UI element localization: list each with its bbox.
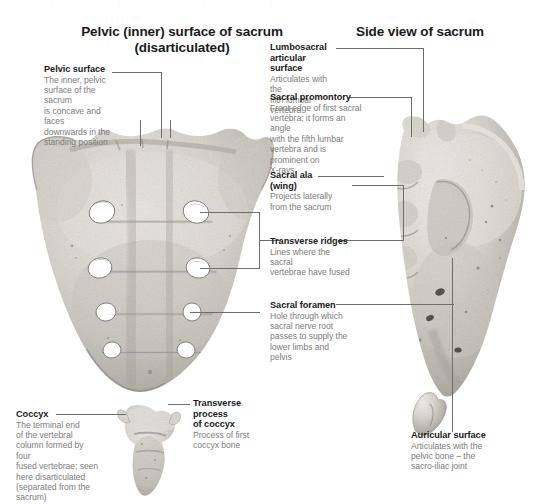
leader-transverse-process-h [168,404,190,405]
page-title-left: Pelvic (inner) surface of sacrum (disart… [62,24,302,56]
callout-sacral-promontory-title: Sacral promontory [270,92,362,103]
leader-ridges-pelvic-h2 [200,268,260,269]
callout-transverse-process-title-line2: process [193,409,269,420]
callout-auricular-surface-title: Auricular surface [411,430,507,441]
callout-lumbosacral-title-line2: articular surface [270,53,340,74]
callout-sacral-ala-desc: Projects laterally from the sacrum [270,191,344,212]
leader-auricular-v [452,258,453,432]
leader-transverse-ridges-h2 [352,185,404,186]
callout-lumbosacral-title-line1: Lumbosacral [270,42,340,53]
leader-pelvic-tick1 [140,120,141,146]
page-title-right: Side view of sacrum [320,24,520,40]
callout-transverse-process-title-line3: of coccyx [193,419,269,430]
leader-pelvic-tick2 [170,120,171,138]
leader-sacral-foramen-h [336,304,454,305]
page-title-left-line1: Pelvic (inner) surface of sacrum [62,24,302,40]
callout-transverse-process-title-line1: Transverse [193,398,269,409]
callout-pelvic-surface-desc: The inner, pelvic surface of the sacrum … [44,75,122,148]
callout-sacral-ala-title-line1: Sacral ala [270,170,344,181]
callout-pelvic-surface: Pelvic surface The inner, pelvic surface… [44,64,122,147]
callout-transverse-ridges-title: Transverse ridges [270,236,350,247]
callout-auricular-surface-desc: Articulates with the pelvic bone – the s… [411,441,507,472]
callout-coccyx-title: Coccyx [16,409,100,420]
leader-lumbosacral-h [336,48,424,49]
callout-sacral-promontory-desc: Front edge of first sacral vertebra; it … [270,103,362,176]
leader-foramen-pelvic-h [190,312,260,313]
callout-transverse-process-of-coccyx: Transverse process of coccyx Process of … [193,398,269,451]
leader-ridges-pelvic-h1 [200,212,260,213]
leader-lumbosacral-v [423,48,424,132]
callout-transverse-ridges: Transverse ridges Lines where the sacral… [270,236,350,278]
callout-sacral-foramen: Sacral foramen Hole through which sacral… [270,300,352,363]
page-title-left-line2: (disarticulated) [62,40,302,56]
callout-sacral-foramen-title: Sacral foramen [270,300,352,311]
leader-pelvic-surface-v [161,72,162,138]
callout-pelvic-surface-title: Pelvic surface [44,64,122,75]
callout-sacral-promontory: Sacral promontory Front edge of first sa… [270,92,362,175]
leader-transverse-ridges-v [403,185,404,241]
callout-coccyx-desc: The terminal end of the vertebral column… [16,420,100,503]
callout-transverse-process-desc: Process of first coccyx bone [193,430,269,451]
callout-sacral-foramen-desc: Hole through which sacral nerve root pas… [270,311,352,363]
leader-sacral-promontory-v [411,97,412,137]
callout-transverse-ridges-desc: Lines where the sacral vertebrae have fu… [270,247,350,278]
callout-auricular-surface: Auricular surface Articulates with the p… [411,430,507,472]
callout-coccyx: Coccyx The terminal end of the vertebral… [16,409,100,503]
callout-sacral-ala-wing: Sacral ala (wing) Projects laterally fro… [270,170,344,212]
illustration-canvas: · · · · · · · · · · · · · · · · · [0,0,556,504]
callout-sacral-ala-title-line2: (wing) [270,181,344,192]
